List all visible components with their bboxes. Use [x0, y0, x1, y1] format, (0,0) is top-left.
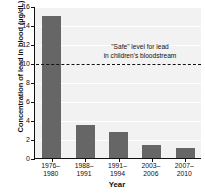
y-tick-mark [31, 7, 35, 8]
bar [76, 125, 95, 158]
x-tick-label-line: 1976– [34, 162, 67, 170]
y-tick-label: 14 [22, 21, 30, 31]
safe-level-threshold-line [31, 64, 201, 65]
safe-level-annotation-line: "Safe" level for lead [81, 43, 199, 52]
x-tick-label-line: 1980 [34, 170, 67, 178]
x-tick-label: 2007–2010 [168, 162, 201, 179]
plot-area: 0246810121416"Safe" level for leadin chi… [34, 7, 201, 159]
x-tick-label: 1976–1980 [34, 162, 67, 179]
x-tick-label-line: 1991– [101, 162, 134, 170]
bar [42, 16, 61, 159]
y-tick-mark [31, 102, 35, 103]
y-gridline [35, 7, 201, 8]
safe-level-annotation: "Safe" level for leadin children's blood… [81, 43, 199, 60]
x-tick-label: 1988–1991 [67, 162, 100, 179]
x-tick-label-line: 1988– [67, 162, 100, 170]
x-tick-label-line: 2003– [134, 162, 167, 170]
x-tick-label-line: 2006 [134, 170, 167, 178]
y-tick-label: 16 [22, 2, 30, 12]
x-tick-label-line: 1994 [101, 170, 134, 178]
safe-level-annotation-line: in children's bloodstream [81, 52, 199, 61]
y-tick-mark [31, 83, 35, 84]
y-tick-mark [31, 45, 35, 46]
y-tick-mark [31, 159, 35, 160]
y-tick-label: 10 [22, 59, 30, 69]
x-tick-label: 2003–2006 [134, 162, 167, 179]
bar [109, 132, 128, 158]
x-tick-label-line: 2010 [168, 170, 201, 178]
bar [142, 145, 161, 158]
lead-concentration-bar-chart: Concentration of lead in blood (µg/dL) 0… [0, 0, 205, 196]
y-tick-mark [31, 140, 35, 141]
y-tick-label: 6 [26, 97, 30, 107]
y-tick-label: 4 [26, 116, 30, 126]
plot-inner [35, 7, 201, 158]
x-axis-title: Year [34, 180, 200, 189]
y-tick-label: 12 [22, 40, 30, 50]
x-tick-label-line: 2007– [168, 162, 201, 170]
y-tick-mark [31, 26, 35, 27]
x-tick-label-line: 1991 [67, 170, 100, 178]
y-tick-mark [31, 121, 35, 122]
bar [176, 148, 195, 158]
y-tick-label: 8 [26, 78, 30, 88]
y-tick-label: 0 [26, 154, 30, 164]
y-tick-label: 2 [26, 135, 30, 145]
x-tick-label: 1991–1994 [101, 162, 134, 179]
